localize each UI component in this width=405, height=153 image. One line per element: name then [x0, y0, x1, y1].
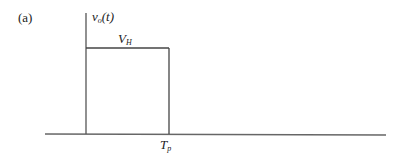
level-var: V [118, 31, 126, 46]
level-label: VH [118, 31, 132, 47]
level-sub: H [126, 38, 132, 47]
y-axis-label: vo(t) [92, 9, 114, 25]
panel-label: (a) [18, 10, 32, 26]
x-tick-label: Tp [160, 137, 171, 153]
tick-sub: p [167, 144, 171, 153]
pulse-diagram [0, 0, 405, 153]
x-axis [45, 134, 386, 135]
y-arg: (t) [102, 9, 114, 24]
